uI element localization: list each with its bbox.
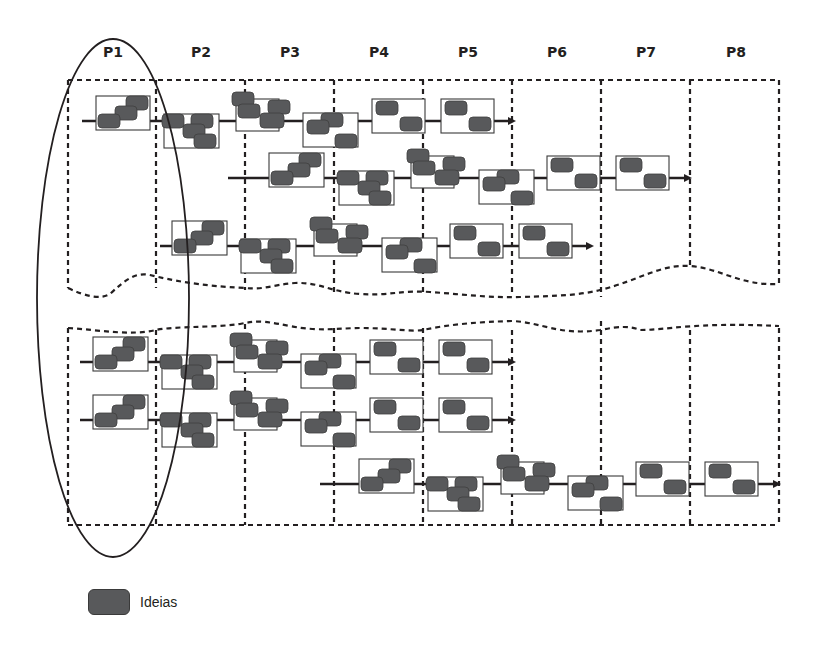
idea-icon	[194, 134, 216, 148]
innovation-phases-diagram	[0, 0, 817, 648]
upper-panel-flow-row-3	[160, 217, 594, 273]
idea-icon	[398, 416, 420, 430]
idea-icon	[426, 477, 448, 491]
phase-label-p7: P7	[636, 44, 656, 60]
legend-label: Ideias	[140, 594, 177, 610]
idea-group-tri3	[310, 217, 368, 256]
idea-group-diag2	[616, 156, 669, 190]
idea-group-diag2	[439, 340, 492, 374]
idea-group-stair3b	[303, 113, 358, 148]
idea-icon	[525, 476, 549, 491]
idea-icon	[620, 158, 642, 172]
upper-panel-flow-row-1	[82, 92, 516, 148]
idea-group-stair3b	[382, 238, 437, 273]
lower-panel-flow-row-1	[80, 333, 516, 389]
idea-icon	[374, 400, 396, 414]
idea-icon	[236, 345, 258, 359]
idea-group-grid4	[337, 171, 394, 205]
idea-icon	[644, 174, 666, 188]
idea-group-stair3	[359, 459, 414, 493]
idea-group-diag2	[441, 99, 494, 133]
idea-group-stair3	[96, 96, 150, 130]
idea-icon	[523, 226, 545, 240]
idea-icon	[664, 480, 686, 494]
idea-icon	[258, 354, 282, 369]
idea-group-stair3	[93, 395, 148, 429]
idea-icon	[316, 229, 338, 243]
phase-label-p4: P4	[369, 44, 389, 60]
idea-icon	[95, 355, 117, 369]
idea-icon	[414, 259, 436, 273]
idea-group-stair3b	[479, 170, 534, 205]
idea-group-tri3	[230, 333, 288, 372]
idea-icon	[162, 114, 184, 128]
idea-group-grid4	[160, 413, 217, 447]
idea-icon	[445, 101, 467, 115]
idea-group-diag2	[519, 224, 572, 258]
idea-group-stair3	[269, 153, 324, 187]
idea-icon	[192, 433, 214, 447]
idea-group-grid4	[426, 477, 483, 511]
idea-flow-rows	[80, 92, 781, 511]
idea-group-stair3b	[301, 412, 356, 447]
idea-icon	[369, 191, 391, 205]
idea-icon	[236, 403, 258, 417]
idea-group-grid4	[239, 239, 296, 273]
phase-label-p1: P1	[103, 44, 123, 60]
idea-icon	[307, 120, 329, 134]
phase-label-p8: P8	[726, 44, 746, 60]
idea-icon	[338, 238, 362, 253]
idea-group-diag2	[450, 224, 503, 258]
idea-group-diag2	[705, 462, 758, 496]
idea-icon	[386, 245, 408, 259]
idea-icon	[467, 358, 489, 372]
idea-icon	[268, 100, 290, 114]
idea-group-grid4	[160, 355, 217, 389]
idea-icon	[239, 239, 261, 253]
idea-group-stair3	[93, 337, 148, 371]
idea-icon	[435, 170, 459, 185]
idea-group-tri3	[497, 455, 555, 494]
idea-icon	[709, 464, 731, 478]
legend: Ideias	[88, 589, 177, 615]
idea-icon	[305, 419, 327, 433]
lower-panel-flow-row-3	[320, 455, 781, 511]
idea-icon	[640, 464, 662, 478]
idea-group-diag2	[439, 398, 492, 432]
idea-icon	[454, 226, 476, 240]
idea-icon	[443, 400, 465, 414]
phase-label-p6: P6	[547, 44, 567, 60]
idea-group-diag2	[370, 398, 423, 432]
idea-icon	[376, 101, 398, 115]
upper-panel-flow-row-2	[228, 149, 692, 205]
idea-icon	[478, 242, 500, 256]
idea-icon	[266, 399, 288, 413]
idea-icon	[467, 416, 489, 430]
idea-icon	[238, 104, 260, 118]
idea-icon	[260, 113, 284, 128]
idea-group-stair3b	[301, 354, 356, 389]
idea-block-icon	[88, 589, 130, 615]
idea-group-tri3	[407, 149, 465, 188]
idea-icon	[333, 375, 355, 389]
idea-icon	[547, 242, 569, 256]
idea-group-tri3	[232, 92, 290, 131]
idea-icon	[443, 157, 465, 171]
idea-icon	[600, 497, 622, 511]
idea-group-stair3	[172, 221, 227, 255]
idea-icon	[335, 134, 357, 148]
idea-icon	[398, 358, 420, 372]
idea-group-diag2	[636, 462, 689, 496]
phase-label-p2: P2	[191, 44, 211, 60]
idea-group-stair3b	[568, 476, 623, 511]
idea-group-diag2	[370, 340, 423, 374]
idea-icon	[333, 433, 355, 447]
phase-label-p3: P3	[280, 44, 300, 60]
idea-icon	[271, 259, 293, 273]
lower-panel-flow-row-2	[80, 391, 516, 447]
idea-icon	[572, 483, 594, 497]
idea-icon	[95, 413, 117, 427]
idea-icon	[458, 497, 480, 511]
idea-icon	[443, 342, 465, 356]
idea-icon	[400, 117, 422, 131]
